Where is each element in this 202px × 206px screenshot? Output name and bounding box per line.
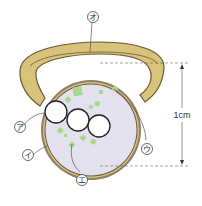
svg-text:オ: オ <box>89 13 97 22</box>
bubble-right <box>88 115 110 137</box>
label-u: ウ <box>142 144 153 155</box>
label-a: ア <box>15 122 26 133</box>
bubble-middle <box>67 109 89 131</box>
ring-diagram: 1cm オ ア イ ウ エ <box>0 0 202 206</box>
svg-text:ア: ア <box>16 123 24 132</box>
label-o: オ <box>88 12 99 23</box>
label-e: エ <box>77 175 88 186</box>
svg-text:ウ: ウ <box>143 145 151 154</box>
dimension-label: 1cm <box>173 110 190 120</box>
svg-text:エ: エ <box>78 176 86 185</box>
svg-text:イ: イ <box>24 151 32 160</box>
bubble-left <box>45 101 67 123</box>
label-i: イ <box>23 150 34 161</box>
